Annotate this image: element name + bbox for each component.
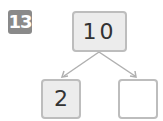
part-box-left: 2 — [41, 79, 81, 119]
whole-box: 10 — [72, 11, 127, 52]
part-box-right-answer[interactable] — [118, 79, 158, 119]
